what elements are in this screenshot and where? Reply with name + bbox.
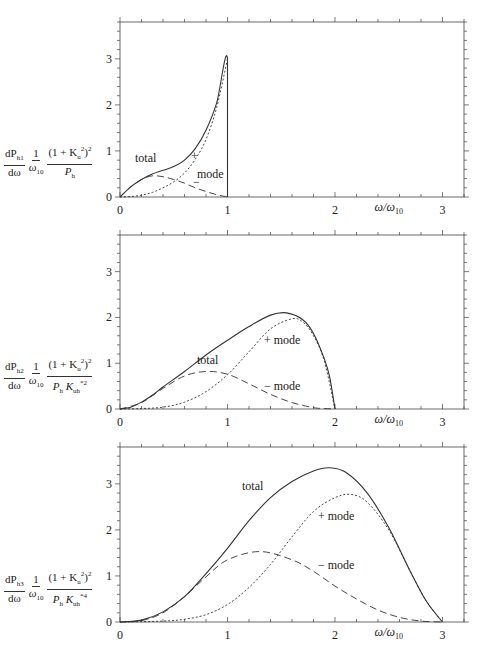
y-tick-label: 1 (106, 569, 112, 583)
annotation-minus: − mode (318, 558, 354, 572)
x-axis-label: ω/ω10 (375, 625, 403, 641)
y-tick-label: 2 (106, 523, 112, 537)
y-tick-label: 3 (106, 477, 112, 491)
chart-3: 01230123ω/ω10total+ mode− mode (0, 0, 486, 654)
annotation-total: total (242, 479, 264, 493)
y-tick-label: 0 (106, 615, 112, 629)
series-mode-line (120, 494, 443, 622)
series-total-line (120, 468, 443, 622)
annotation-plus: + mode (318, 509, 354, 523)
panel-3: dPh3dω 1ω10 (1 + Ku2)2Ph Kuh*4 01230123ω… (0, 0, 486, 654)
x-tick-label: 1 (225, 628, 231, 642)
x-tick-label: 2 (332, 628, 338, 642)
x-tick-label: 0 (117, 628, 123, 642)
series-mode-line (120, 552, 443, 622)
plot-frame (120, 447, 464, 622)
x-tick-label: 3 (440, 628, 446, 642)
